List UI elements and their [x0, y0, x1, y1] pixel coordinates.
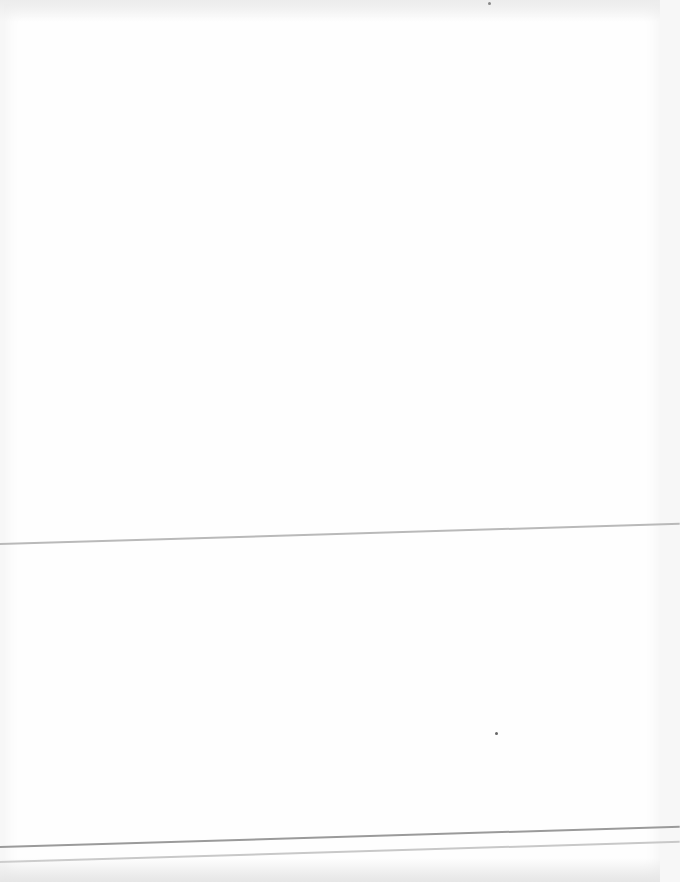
bottom-edge-shadow [0, 858, 660, 882]
top-edge-shadow [0, 0, 660, 22]
paper-speck [488, 2, 491, 5]
paper-sheet [4, 4, 660, 880]
paper-speck [495, 732, 498, 735]
